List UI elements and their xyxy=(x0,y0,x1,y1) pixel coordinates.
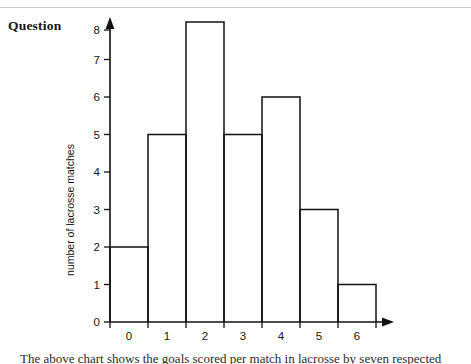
y-tick-label: 4 xyxy=(94,166,101,178)
y-axis-title: number of lacrosse matches xyxy=(64,144,76,276)
y-axis-ticks xyxy=(104,30,110,322)
histogram-chart: 0 1 2 3 4 5 6 7 8 xyxy=(0,0,471,345)
x-tick-label: 3 xyxy=(240,330,246,342)
y-tick-label: 1 xyxy=(94,279,100,291)
x-tick-label: 2 xyxy=(202,330,208,342)
bar-4 xyxy=(262,97,300,322)
y-axis-arrowhead xyxy=(106,17,115,29)
x-axis-ticks xyxy=(110,322,376,328)
bar-5 xyxy=(300,210,338,323)
bar-3 xyxy=(224,135,262,323)
x-axis-arrowhead xyxy=(382,318,394,327)
y-tick-label: 5 xyxy=(94,129,100,141)
x-tick-label: 0 xyxy=(126,330,132,342)
x-tick-label: 5 xyxy=(316,330,322,342)
bar-6 xyxy=(338,285,376,323)
y-tick-label: 7 xyxy=(94,54,100,66)
y-tick-label: 3 xyxy=(94,204,100,216)
x-tick-label: 4 xyxy=(278,330,285,342)
x-tick-label: 1 xyxy=(164,330,170,342)
y-axis-tick-labels: 0 1 2 3 4 5 6 7 8 xyxy=(94,24,101,328)
bar-series xyxy=(110,22,376,322)
bar-1 xyxy=(148,135,186,323)
body-paragraph: The above chart shows the goals scored p… xyxy=(0,351,471,364)
chart-svg: 0 1 2 3 4 5 6 7 8 xyxy=(0,0,471,345)
x-axis-tick-labels: 0 1 2 3 4 5 6 xyxy=(126,330,360,342)
y-tick-label: 0 xyxy=(94,316,100,328)
body-paragraph-line: The above chart shows the goals scored p… xyxy=(0,351,471,364)
y-tick-label: 6 xyxy=(94,91,100,103)
bar-2 xyxy=(186,22,224,322)
y-tick-label: 2 xyxy=(94,241,100,253)
x-tick-label: 6 xyxy=(354,330,360,342)
y-tick-label: 8 xyxy=(94,24,100,36)
bar-0 xyxy=(110,247,148,322)
x-axis xyxy=(110,318,394,327)
